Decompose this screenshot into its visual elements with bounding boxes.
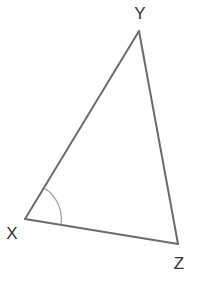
side-xy — [25, 31, 139, 219]
side-yz — [139, 31, 178, 244]
vertex-label-y: Y — [134, 4, 145, 23]
triangle-sides — [25, 31, 178, 244]
vertex-label-x: X — [6, 224, 17, 243]
vertex-labels: Y X Z — [6, 4, 184, 273]
vertex-label-z: Z — [174, 254, 184, 273]
side-xz — [25, 219, 178, 244]
angle-arc-x — [44, 188, 61, 224]
triangle-diagram: Y X Z — [0, 0, 199, 283]
